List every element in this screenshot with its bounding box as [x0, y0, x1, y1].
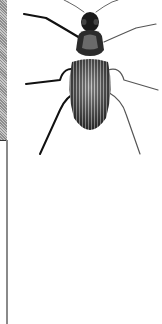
page-edge-rule: [6, 140, 8, 324]
hatched-margin-strip: [0, 0, 7, 140]
beetle-illustration: [8, 0, 162, 162]
